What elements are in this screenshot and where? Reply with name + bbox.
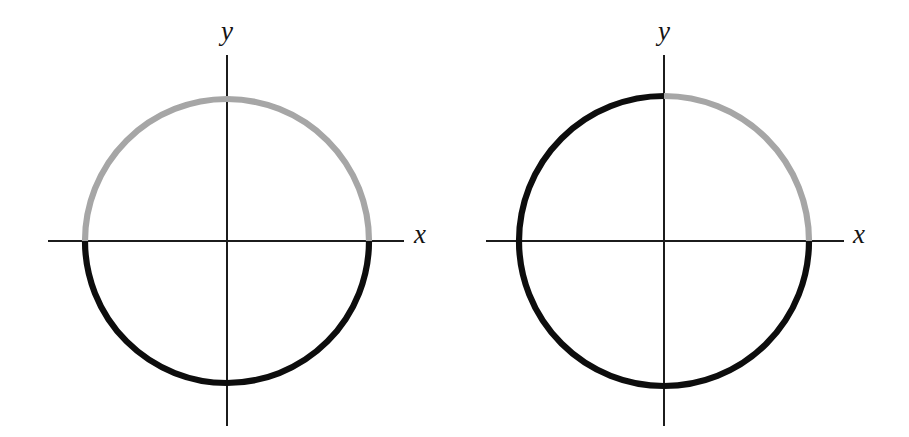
circle-arcs-figure: x y x y — [0, 0, 909, 437]
right-circle-diagram: x y — [486, 16, 865, 426]
right-y-axis-label: y — [655, 16, 670, 46]
left-y-axis-label: y — [218, 16, 233, 46]
left-circle-diagram: x y — [48, 16, 426, 426]
figure-container: x y x y — [0, 0, 909, 437]
right-x-axis-label: x — [852, 219, 865, 249]
left-x-axis-label: x — [413, 219, 426, 249]
right-gray-arc — [664, 96, 809, 241]
